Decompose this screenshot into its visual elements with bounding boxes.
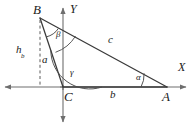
altitude-label-hb-subscript: b — [21, 52, 25, 60]
arc-angle-alpha — [141, 73, 144, 87]
axis-label-y: Y — [70, 3, 77, 15]
figure-canvas — [0, 0, 193, 130]
altitude-label-hb: hb — [16, 44, 25, 58]
angle-label-gamma: γ — [70, 68, 74, 77]
geometry-figure: B C A Y X a b c α β γ hb — [0, 0, 193, 130]
arc-angle-gamma — [51, 50, 102, 89]
angle-label-beta: β — [56, 30, 60, 39]
angle-label-alpha: α — [136, 73, 141, 82]
side-label-a: a — [42, 54, 48, 65]
side-label-c: c — [108, 34, 113, 45]
vertex-label-c: C — [64, 90, 73, 103]
side-label-b: b — [110, 89, 116, 100]
axis-label-x: X — [178, 61, 185, 73]
vertex-label-a: A — [162, 90, 170, 103]
vertex-label-b: B — [33, 3, 41, 16]
